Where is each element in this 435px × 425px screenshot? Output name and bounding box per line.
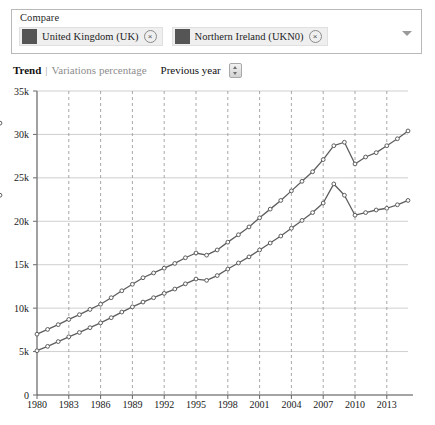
svg-text:30k: 30k (14, 129, 29, 140)
svg-text:2007: 2007 (313, 399, 333, 410)
svg-text:25k: 25k (14, 172, 29, 183)
chart-background (0, 82, 435, 425)
close-circle-icon[interactable]: × (144, 30, 157, 43)
period-select-value: Previous year (161, 64, 221, 76)
svg-text:1980: 1980 (27, 399, 47, 410)
close-circle-icon[interactable]: × (309, 30, 322, 43)
compare-tag-uk[interactable]: United Kingdom (UK) × (19, 27, 163, 46)
series-color-swatch-uk (22, 29, 37, 44)
tab-trend[interactable]: Trend (13, 64, 41, 76)
svg-text:2010: 2010 (345, 399, 365, 410)
compare-label: Compare (20, 12, 59, 23)
trend-line-chart: 05k10k15k20k25k30k35k 198019831986198919… (0, 82, 435, 425)
svg-text:5k: 5k (19, 346, 29, 357)
svg-text:2004: 2004 (281, 399, 301, 410)
svg-text:20k: 20k (14, 216, 29, 227)
compare-tag-list: United Kingdom (UK) × Northern Ireland (… (19, 27, 328, 46)
stepper-updown-icon[interactable] (229, 63, 242, 78)
compare-tag-label: Northern Ireland (UKN0) (195, 31, 304, 42)
series-color-swatch-ukn0 (175, 29, 190, 44)
svg-text:15k: 15k (14, 259, 29, 270)
svg-text:1983: 1983 (59, 399, 79, 410)
compare-tag-ukn0[interactable]: Northern Ireland (UKN0) × (172, 27, 328, 46)
period-select[interactable]: Previous year (161, 63, 242, 78)
svg-text:1995: 1995 (186, 399, 206, 410)
svg-text:1986: 1986 (91, 399, 111, 410)
chevron-down-icon[interactable] (402, 31, 412, 36)
tab-variations-percentage[interactable]: Variations percentage (52, 64, 147, 76)
svg-text:1992: 1992 (154, 399, 174, 410)
compare-selector-box[interactable]: Compare United Kingdom (UK) × Northern I… (11, 9, 422, 54)
mode-separator: | (45, 64, 47, 76)
svg-text:2001: 2001 (250, 399, 270, 410)
svg-text:1989: 1989 (122, 399, 142, 410)
svg-text:2013: 2013 (377, 399, 397, 410)
svg-text:35k: 35k (14, 86, 29, 97)
compare-tag-label: United Kingdom (UK) (42, 31, 139, 42)
svg-text:10k: 10k (14, 303, 29, 314)
svg-text:1998: 1998 (218, 399, 238, 410)
chart-mode-bar: Trend | Variations percentage Previous y… (13, 62, 242, 78)
chart-canvas: 05k10k15k20k25k30k35k 198019831986198919… (0, 82, 435, 425)
